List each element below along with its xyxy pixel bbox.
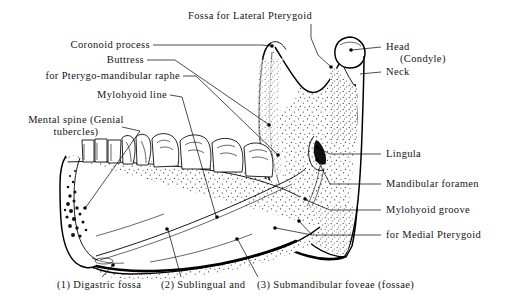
point-digastric-fossa [111, 263, 115, 267]
label-head-line1: Head [386, 41, 446, 53]
point-coronoid-process [270, 44, 274, 48]
point-medial-pterygoid [273, 226, 277, 230]
label-mental-spine-line1: Mental spine (Genial [16, 114, 136, 126]
label-mylohyoid-line: Mylohyoid line [0, 89, 167, 101]
label-mental-spine: Mental spine (Genial tubercles) [16, 114, 136, 138]
anatomical-figure: Fossa for Lateral Pterygoid Coronoid pro… [0, 0, 508, 308]
label-medial-pterygoid: for Medial Pterygoid [386, 229, 481, 241]
footnote-submandibular-fovea: (3) Submandibular foveae (fossae) [257, 279, 414, 291]
label-lingula: Lingula [386, 148, 421, 160]
label-fossa-lateral-pterygoid: Fossa for Lateral Pterygoid [186, 10, 314, 22]
label-mandibular-foramen: Mandibular foramen [386, 178, 479, 190]
point-pterygomandibular-raphe [276, 153, 280, 157]
label-buttress: Buttress [0, 54, 144, 66]
point-submandibular-fovea [235, 237, 239, 241]
point-medial-pterygoid-2 [297, 219, 301, 223]
point-sublingual-fovea [165, 227, 169, 231]
label-coronoid-process: Coronoid process [0, 39, 150, 51]
point-fossa-lateral-pterygoid [329, 65, 333, 69]
point-mandibular-foramen [315, 158, 319, 162]
footnote-sublingual-fovea: (2) Sublingual and [161, 279, 245, 291]
point-mylohyoid-line [215, 215, 219, 219]
label-head-condyle: Head (Condyle) [386, 41, 446, 65]
label-mylohyoid-groove: Mylohyoid groove [386, 204, 470, 216]
leader-coronoid-process [153, 45, 271, 46]
label-head-line2: (Condyle) [386, 53, 446, 65]
point-mental-spine [83, 206, 87, 210]
label-pterygomandibular-raphe: for Pterygo-mandibular raphe [0, 70, 180, 82]
label-mental-spine-line2: tubercles) [16, 126, 136, 138]
footnote-digastric-fossa: (1) Digastric fossa [57, 279, 141, 291]
point-mylohyoid-groove [303, 197, 307, 201]
label-neck: Neck [386, 66, 410, 78]
point-head-condyle [349, 48, 353, 52]
point-lingula [315, 145, 319, 149]
point-buttress [267, 123, 271, 127]
